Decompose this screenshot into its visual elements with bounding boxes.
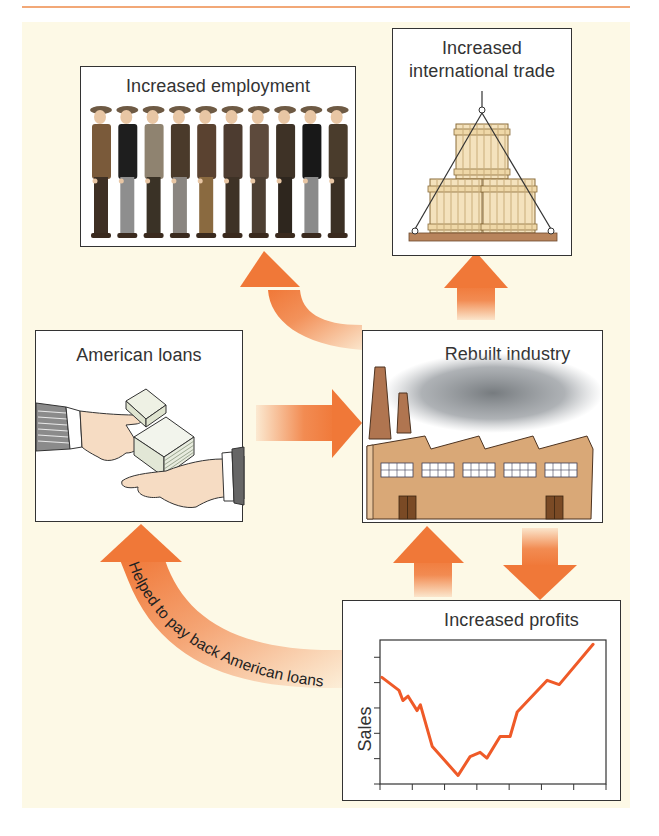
crates-illustration xyxy=(393,29,573,257)
crate-bottom-right-icon xyxy=(481,179,537,233)
y-axis-label: Sales xyxy=(355,706,375,751)
arrow-profits-to-industry xyxy=(393,526,464,597)
factory-illustration xyxy=(363,331,604,524)
money-handover-illustration xyxy=(36,331,244,523)
worker-icon xyxy=(90,106,112,238)
arrow-industry-to-profits xyxy=(503,528,577,600)
crate-top-icon xyxy=(454,124,510,179)
worker-icon xyxy=(248,106,270,238)
axis-ticks xyxy=(374,657,606,790)
giving-hand-icon xyxy=(80,411,142,460)
plot-area xyxy=(380,640,606,784)
crate-bottom-left-icon xyxy=(428,179,484,233)
worker-icon xyxy=(327,106,349,238)
sales-line-chart: Sales xyxy=(343,601,622,802)
worker-icon xyxy=(222,106,244,238)
smoke-cloud-icon xyxy=(383,353,603,433)
arrow-industry-to-employment xyxy=(240,251,362,350)
arrow-profits-to-loans: Helped to pay back American loans xyxy=(100,524,342,690)
node-rebuilt-industry: Rebuilt industry xyxy=(362,330,603,523)
worker-icon xyxy=(116,106,138,238)
worker-icon xyxy=(274,106,296,238)
node-american-loans: American loans xyxy=(35,330,243,522)
worker-icon xyxy=(195,106,217,238)
arrow-industry-to-trade xyxy=(444,252,508,320)
sales-line xyxy=(382,644,593,775)
node-increased-profits: Increased profits Sales xyxy=(342,600,621,801)
worker-icon xyxy=(169,106,191,238)
arrow-loans-to-industry xyxy=(256,389,362,458)
right-sleeve-icon xyxy=(222,447,244,505)
left-sleeve-icon xyxy=(36,403,82,451)
worker-icon xyxy=(143,106,165,238)
node-increased-international-trade: Increased international trade xyxy=(392,28,572,256)
node-increased-employment: Increased employment xyxy=(80,66,356,247)
pallet-icon xyxy=(409,233,557,241)
workers-illustration xyxy=(81,67,357,248)
worker-icon xyxy=(300,106,322,238)
banknotes-icon xyxy=(126,389,194,477)
